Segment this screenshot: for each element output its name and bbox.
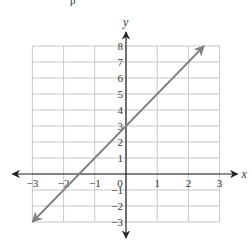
y-tick-label: −1: [111, 184, 123, 196]
x-tick-label: −2: [58, 177, 70, 189]
x-tick-label: −3: [27, 177, 39, 189]
y-tick-label: 1: [118, 152, 124, 164]
x-tick-label: 3: [217, 177, 223, 189]
y-tick-label: 8: [118, 40, 124, 52]
y-tick-label: −3: [111, 216, 123, 228]
x-tick-label: −1: [89, 177, 101, 189]
y-tick-label: 5: [118, 88, 124, 100]
x-tick-label: 2: [186, 177, 192, 189]
tick-labels: −3−2−10123−3−2−112345678: [27, 40, 223, 228]
coordinate-plane: xy −3−2−10123−3−2−112345678: [0, 0, 252, 245]
x-tick-label: 1: [154, 177, 160, 189]
y-tick-label: −2: [111, 200, 123, 212]
y-tick-label: 7: [118, 56, 124, 68]
y-tick-label: 2: [118, 136, 124, 148]
y-tick-label: 6: [118, 72, 124, 84]
x-axis-label: x: [241, 167, 248, 181]
y-axis-label: y: [122, 15, 129, 29]
y-tick-label: 4: [118, 104, 124, 116]
